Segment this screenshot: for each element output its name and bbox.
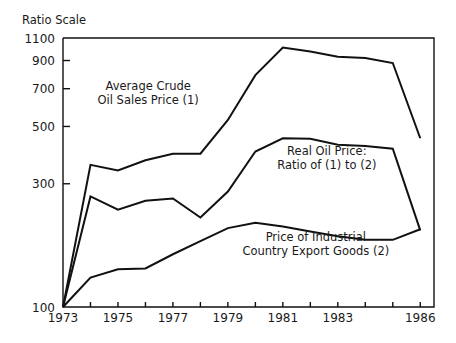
y-tick-label: 1100 [24, 32, 55, 46]
x-tick-label: 1975 [103, 311, 134, 325]
annotation-1-line2: Ratio of (1) to (2) [277, 158, 376, 172]
annotation-2-line2: Country Export Goods (2) [242, 244, 389, 258]
y-tick-label: 900 [32, 54, 55, 68]
x-tick-label: 1977 [158, 311, 189, 325]
ratio-scale-line-chart: Ratio Scale 1003005007009001100 19731975… [0, 0, 456, 343]
annotation-2-line1: Price of Industrial [266, 230, 366, 244]
y-axis-title: Ratio Scale [22, 13, 86, 27]
y-tick-label: 700 [32, 82, 55, 96]
x-tick-label: 1979 [213, 311, 244, 325]
x-tick-label: 1981 [268, 311, 299, 325]
x-tick-label: 1973 [48, 311, 79, 325]
annotation-0-line1: Average Crude [106, 79, 191, 93]
annotation-0-line2: Oil Sales Price (1) [98, 93, 199, 107]
chart-figure: Ratio Scale 1003005007009001100 19731975… [0, 0, 456, 343]
y-tick-label: 300 [32, 177, 55, 191]
x-tick-label: 1983 [323, 311, 354, 325]
x-tick-label: 1986 [405, 311, 436, 325]
chart-background [0, 0, 456, 343]
y-tick-label: 500 [32, 120, 55, 134]
annotation-1-line1: Real Oil Price: [287, 144, 366, 158]
